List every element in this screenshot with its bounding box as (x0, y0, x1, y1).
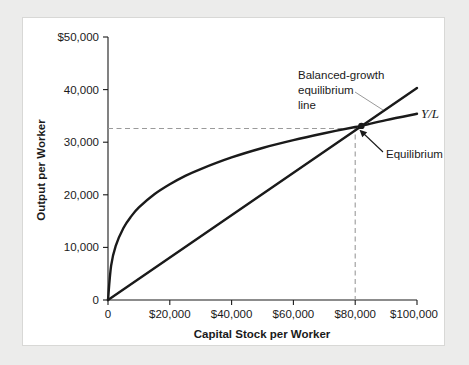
chart-canvas: 0 10,000 20,000 30,000 40,000 $50,000 0 … (0, 0, 469, 365)
y-tick-label-30000: 30,000 (64, 136, 99, 148)
production-function-curve (108, 114, 417, 300)
y-axis-tick-labels: 0 10,000 20,000 30,000 40,000 $50,000 (57, 31, 99, 306)
balanced-growth-label-line-3: line (298, 99, 316, 111)
y-tick-label-10000: 10,000 (64, 241, 99, 253)
y-axis-title: Output per Worker (35, 119, 47, 221)
x-axis-ticks (108, 300, 417, 305)
figure-root: 0 10,000 20,000 30,000 40,000 $50,000 0 … (0, 0, 469, 365)
x-axis-tick-labels: 0 $20,000 $40,000 $60,000 $80,000 $100,0… (105, 308, 438, 320)
x-axis-title: Capital Stock per Worker (194, 328, 331, 340)
equilibrium-point-marker (358, 123, 364, 129)
equilibrium-arrow (360, 130, 384, 152)
series-label-yl: Y/L (421, 106, 439, 121)
y-axis-ticks (103, 37, 108, 300)
balanced-growth-label-line-2: equilibrium (298, 84, 354, 96)
x-tick-label-60000: $60,000 (273, 308, 315, 320)
y-tick-label-40000: 40,000 (64, 84, 99, 96)
balanced-growth-label: Balanced-growth equilibrium line (298, 69, 384, 111)
y-tick-label-20000: 20,000 (64, 189, 99, 201)
x-tick-label-100000: $100,000 (390, 308, 438, 320)
balanced-growth-leader-line (355, 92, 383, 110)
x-tick-label-40000: $40,000 (211, 308, 253, 320)
x-tick-label-0: 0 (105, 308, 111, 320)
balanced-growth-label-line-1: Balanced-growth (298, 69, 384, 81)
y-tick-label-0: 0 (93, 294, 99, 306)
y-tick-label-50000: $50,000 (57, 31, 99, 43)
x-tick-label-80000: $80,000 (334, 308, 376, 320)
equilibrium-label: Equilibrium (386, 148, 443, 160)
x-tick-label-20000: $20,000 (149, 308, 191, 320)
